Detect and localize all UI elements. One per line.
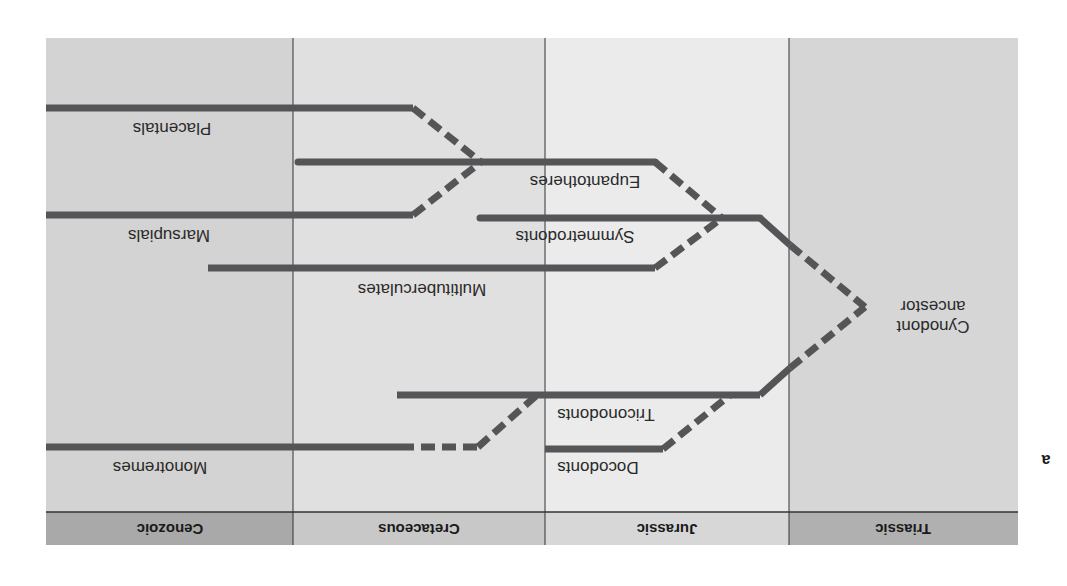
label-triconodonts: Triconodonts <box>557 405 655 424</box>
period-label-triassic: Triassic <box>875 521 931 538</box>
label-monotremes: Monotremes <box>113 458 207 477</box>
period-label-jurassic: Jurassic <box>637 521 698 538</box>
label-ancestor-line2: ancestor <box>900 297 966 316</box>
mammal-phylogeny-diagram: Cenozoic Cretaceous Jurassic Triassic Pl… <box>0 0 1067 586</box>
label-ancestor-line1: Cynodont <box>896 317 969 336</box>
panel-letter: a <box>1041 452 1050 469</box>
period-label-cretaceous: Cretaceous <box>378 521 460 538</box>
label-marsupials: Marsupials <box>128 226 210 245</box>
label-docodonts: Docodonts <box>557 458 638 477</box>
label-placentals: Placentals <box>133 119 211 138</box>
label-multituberculates: Multituberculates <box>358 280 487 299</box>
period-label-cenozoic: Cenozoic <box>137 521 204 538</box>
label-symmetrodonts: Symmetrodonts <box>515 227 634 246</box>
jurassic-column <box>545 38 789 512</box>
label-eupantotheres: Eupantotheres <box>530 172 641 191</box>
